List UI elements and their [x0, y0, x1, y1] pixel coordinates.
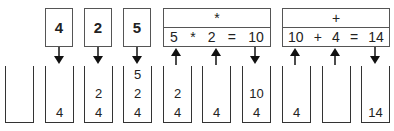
stack-cell: 4 [253, 103, 260, 122]
operation-box-add: + 10 + 4 = 14 [282, 8, 390, 47]
stack-cell: 5 [134, 65, 141, 84]
stack-state [322, 66, 351, 123]
arrow-up-icon [330, 47, 340, 65]
stack-cell: 2 [174, 84, 181, 103]
stack-cell: 4 [174, 103, 181, 122]
stack-state: 4 [202, 66, 231, 123]
stack-cell: 4 [134, 103, 141, 122]
equals: = [228, 29, 236, 45]
token-box: 2 [84, 8, 112, 47]
token-value: 5 [133, 19, 141, 36]
operation-expression: 5 * 2 = 10 [164, 28, 270, 46]
operator: * [190, 29, 195, 45]
stack-state: 4 [282, 66, 311, 123]
arrow-down-icon [250, 47, 260, 65]
stack-cell: 14 [368, 103, 382, 122]
stack-state: 4 10 [242, 66, 271, 123]
stack-state [5, 66, 34, 123]
stack-state: 14 [361, 66, 390, 123]
stack-cell: 2 [134, 84, 141, 103]
arrow-down-icon [132, 47, 142, 65]
operand: 10 [288, 29, 304, 45]
operation-expression: 10 + 4 = 14 [283, 28, 389, 46]
token-box: 5 [123, 8, 151, 47]
operation-box-multiply: * 5 * 2 = 10 [163, 8, 271, 47]
token-box: 4 [45, 8, 73, 47]
operator-label: * [164, 9, 270, 28]
operand: 2 [208, 29, 216, 45]
arrow-down-icon [54, 47, 64, 65]
stack-state: 4 2 [163, 66, 192, 123]
arrow-down-icon [93, 47, 103, 65]
stack-state: 4 [45, 66, 74, 123]
operand: 5 [170, 29, 178, 45]
result: 14 [368, 29, 384, 45]
stack-cell: 2 [95, 84, 102, 103]
operator-label: + [283, 9, 389, 28]
stack-cell: 4 [56, 103, 63, 122]
token-value: 2 [94, 19, 102, 36]
arrow-down-icon [370, 47, 380, 65]
stack-state: 4 2 5 [123, 66, 152, 123]
operand: 4 [332, 29, 340, 45]
stack-cell: 4 [293, 103, 300, 122]
arrow-up-icon [290, 47, 300, 65]
stack-cell: 4 [95, 103, 102, 122]
stack-cell: 10 [249, 84, 263, 103]
equals: = [350, 29, 358, 45]
arrow-up-icon [211, 47, 221, 65]
stack-evaluation-diagram: 4 2 5 * 5 * 2 = 10 + 10 + 4 = 14 4 4 [0, 0, 394, 131]
result: 10 [248, 29, 264, 45]
token-value: 4 [55, 19, 63, 36]
stack-cell: 4 [213, 103, 220, 122]
arrow-up-icon [171, 47, 181, 65]
stack-state: 4 2 [84, 66, 113, 123]
operator: + [314, 29, 322, 45]
